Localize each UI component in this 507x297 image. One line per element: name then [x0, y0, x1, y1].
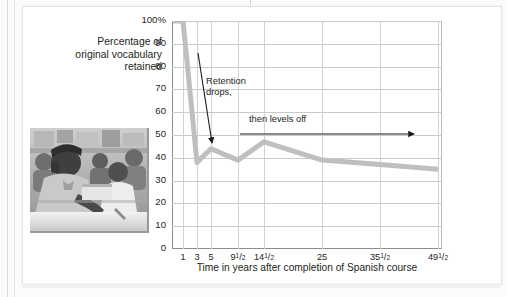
annotation-retention-drops: Retention drops,	[206, 76, 246, 98]
y-tick-50: 50	[120, 128, 166, 139]
page-rule-outer	[7, 0, 8, 297]
y-tick-10: 10	[120, 219, 166, 230]
x-tick-1: 1	[180, 252, 185, 262]
data-series-line	[172, 21, 442, 249]
y-tick-70: 70	[120, 82, 166, 93]
y-tick-30: 30	[120, 174, 166, 185]
page-background: Andrew Holbrooke/Corbis Percentage of or…	[0, 0, 507, 297]
x-tick-14-half: 141/2	[254, 252, 274, 262]
y-tick-80: 80	[120, 60, 166, 71]
x-axis-title: Time in years after completion of Spanis…	[172, 262, 442, 273]
x-tick-49-half: 491/2	[428, 252, 448, 262]
x-tick-25: 25	[317, 252, 327, 262]
x-tick-9-half: 91/2	[230, 252, 245, 262]
annotation-retention-line-2: drops,	[206, 87, 246, 98]
y-tick-60: 60	[120, 105, 166, 116]
y-tick-100: 100%	[120, 14, 166, 25]
annotation-retention-line-1: Retention	[206, 76, 246, 87]
figure-card-shadow	[22, 283, 500, 288]
y-axis-ticks: 100% 90 80 70 60 50 40 30 20 10 0	[120, 21, 166, 249]
retention-line-chart: 100% 90 80 70 60 50 40 30 20 10 0 1 3 5 …	[172, 21, 442, 249]
x-tick-5: 5	[208, 252, 213, 262]
annotation-levels-off: then levels off	[249, 114, 306, 125]
x-tick-3: 3	[194, 252, 199, 262]
y-tick-0: 0	[120, 242, 166, 253]
y-tick-20: 20	[120, 196, 166, 207]
x-tick-35-half: 351/2	[370, 252, 390, 262]
page-rule-inner	[14, 0, 15, 297]
y-tick-90: 90	[120, 37, 166, 48]
y-tick-40: 40	[120, 151, 166, 162]
